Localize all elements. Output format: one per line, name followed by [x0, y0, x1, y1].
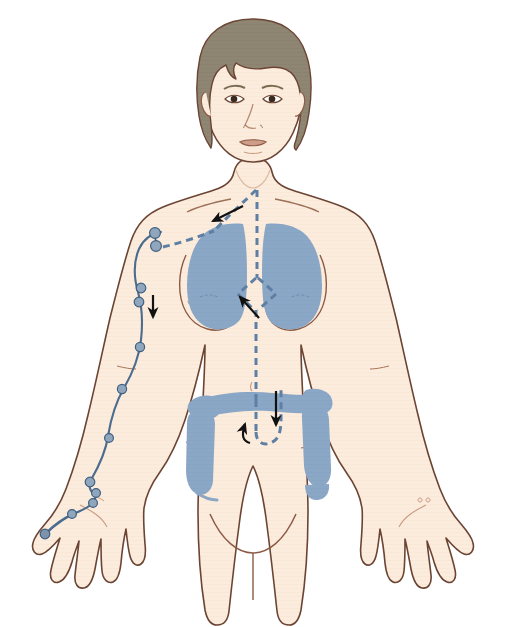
lymph-node — [136, 283, 146, 293]
lymph-node — [85, 477, 95, 487]
mouth — [240, 140, 266, 146]
lymph-node — [150, 228, 161, 239]
lymph-node — [117, 384, 126, 393]
colon-descending — [302, 404, 331, 487]
lymph-node — [92, 489, 101, 498]
colon-sigmoid — [305, 484, 329, 500]
lymph-node — [151, 241, 162, 252]
lymph-node — [40, 529, 50, 539]
lymph-node — [135, 342, 144, 351]
lymph-node — [68, 510, 77, 519]
lymph-node-link — [155, 238, 156, 241]
illustration-canvas: Lymphatic drainage and metastatic spread… — [0, 0, 507, 627]
eye-right-pupil — [269, 96, 276, 103]
lymph-node — [89, 499, 98, 508]
body-group — [33, 158, 474, 625]
lymph-node — [105, 434, 114, 443]
head-group — [197, 19, 311, 162]
lymph-node — [134, 297, 144, 307]
eye-left-pupil — [231, 96, 238, 103]
anatomical-figure-svg — [0, 0, 507, 627]
colon-ascending — [186, 409, 215, 495]
